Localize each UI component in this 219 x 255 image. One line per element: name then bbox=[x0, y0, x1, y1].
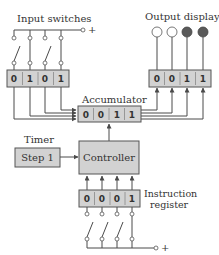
input-switch-3[interactable] bbox=[43, 30, 51, 70]
computer-block-diagram: Input switches + 0 bbox=[0, 0, 219, 255]
accumulator-label: Accumulator bbox=[81, 94, 147, 105]
input-bit-3: 0 bbox=[42, 74, 48, 84]
timer-label: Timer bbox=[24, 134, 54, 145]
instruction-switch-1[interactable] bbox=[85, 207, 93, 248]
input-register: 0 1 0 1 bbox=[7, 70, 69, 87]
output-register: 0 0 1 1 bbox=[149, 70, 211, 87]
input-switches-label: Input switches bbox=[17, 13, 91, 24]
instruction-bit-2: 0 bbox=[99, 194, 105, 204]
output-lamps bbox=[152, 27, 208, 70]
output-bit-2: 0 bbox=[169, 74, 175, 84]
lamp-on-icon bbox=[182, 27, 192, 37]
controller-box: Controller bbox=[79, 141, 139, 174]
input-power-rail: + bbox=[14, 24, 96, 35]
input-to-accumulator-wires bbox=[14, 87, 76, 119]
accumulator-to-output-wires bbox=[141, 88, 203, 119]
input-bit-1: 0 bbox=[11, 74, 17, 84]
instruction-switch-2[interactable] bbox=[100, 207, 108, 248]
instruction-power-rail: + bbox=[87, 242, 169, 253]
accumulator-bit-3: 1 bbox=[114, 110, 120, 120]
accumulator-bit-4: 1 bbox=[129, 110, 135, 120]
lamp-on-icon bbox=[198, 27, 208, 37]
output-bit-1: 0 bbox=[154, 74, 160, 84]
controller-label: Controller bbox=[83, 152, 135, 163]
instruction-bit-3: 0 bbox=[114, 194, 120, 204]
plus-sign-bottom: + bbox=[161, 242, 169, 253]
lamp-off-icon bbox=[152, 27, 162, 37]
output-bit-4: 1 bbox=[200, 74, 206, 84]
input-switch-2[interactable] bbox=[28, 30, 32, 70]
instruction-register-label-line1: Instruction bbox=[144, 188, 197, 199]
output-bit-3: 1 bbox=[184, 74, 190, 84]
input-bit-2: 1 bbox=[27, 74, 33, 84]
instruction-bit-4: 1 bbox=[129, 194, 135, 204]
instruction-to-controller-wires bbox=[87, 176, 132, 190]
accumulator-register: 0 0 1 1 bbox=[78, 106, 141, 122]
output-display-label: Output display bbox=[145, 11, 219, 22]
instruction-register-label-line2: register bbox=[150, 199, 189, 210]
input-bit-4: 1 bbox=[58, 74, 64, 84]
timer-step-text: Step 1 bbox=[21, 152, 54, 163]
accumulator-bit-2: 0 bbox=[98, 110, 104, 120]
plus-sign-top: + bbox=[88, 24, 96, 35]
input-switch-1[interactable] bbox=[12, 30, 20, 70]
input-switch-4[interactable] bbox=[59, 30, 63, 70]
lamp-off-icon bbox=[167, 27, 177, 37]
instruction-bit-1: 0 bbox=[84, 194, 90, 204]
instruction-register: 0 0 0 1 bbox=[79, 190, 140, 207]
timer-step-box: Step 1 bbox=[15, 148, 60, 167]
instruction-switch-4[interactable] bbox=[130, 207, 134, 248]
accumulator-bit-1: 0 bbox=[83, 110, 89, 120]
instruction-switch-3[interactable] bbox=[115, 207, 123, 248]
